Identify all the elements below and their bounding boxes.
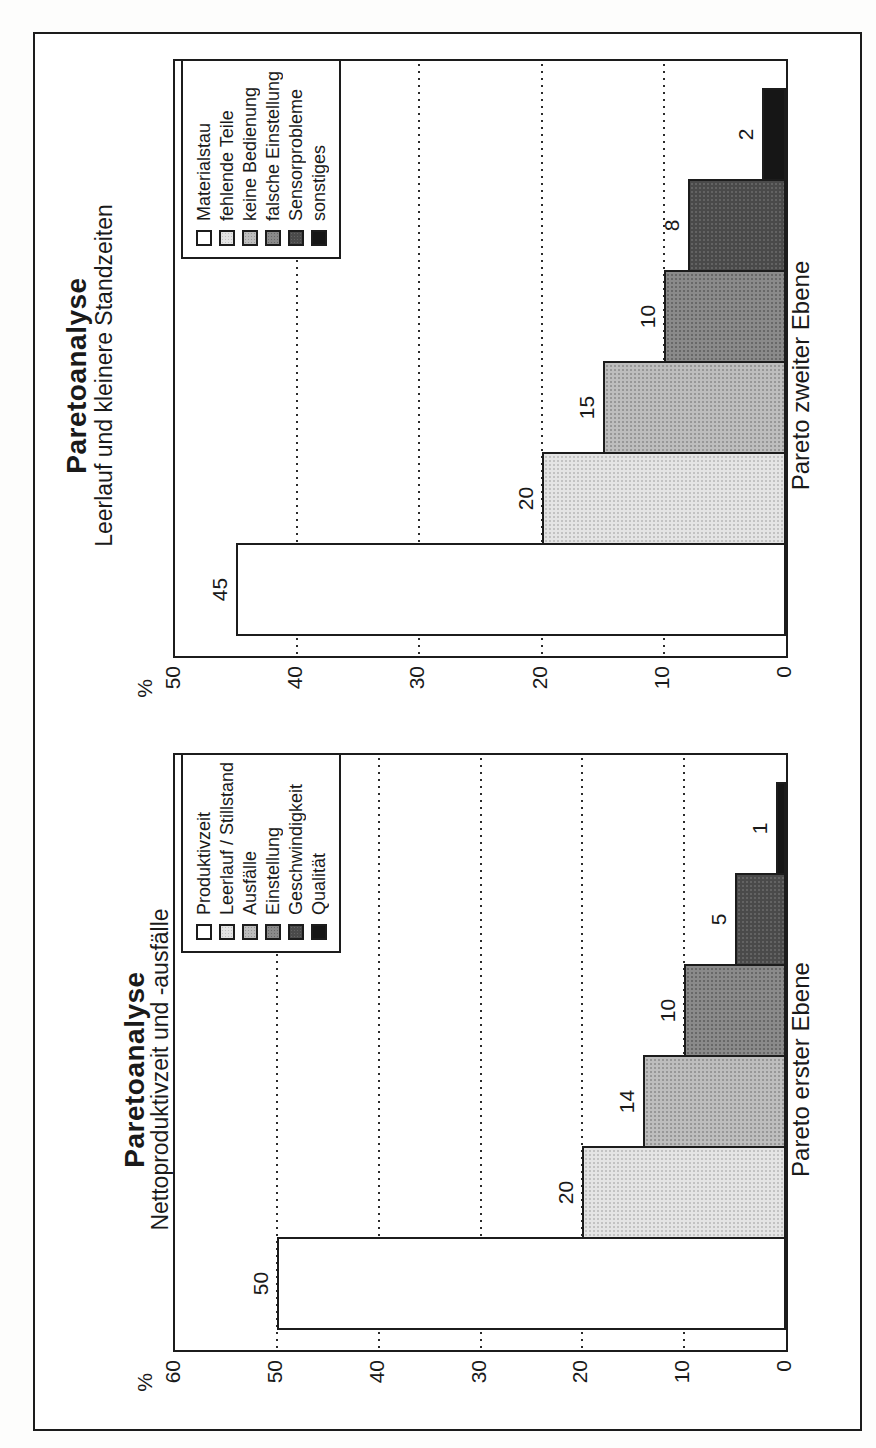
legend-item: keine Bedienung [238,67,261,246]
y-axis-tick-label: 20 [528,666,552,717]
bar-value-label: 45 [209,578,231,601]
bar-value-label: 10 [637,305,659,328]
bar [684,964,786,1057]
y-axis-tick-label: 40 [283,666,307,717]
bar-value-label: 8 [661,220,683,232]
legend-label: Ausfälle [240,851,260,915]
legend-item: sonstiges [307,67,330,246]
bar [582,1146,786,1239]
bar-value-label: 15 [576,396,598,419]
bar-value-label: 14 [616,1090,638,1113]
legend-label: Einstellung [263,827,283,915]
bar-value-label: 10 [657,999,679,1022]
plot-area: 5020141051ProduktivzeitLeerlauf / Stills… [173,753,788,1352]
y-axis-tick-label: 40 [365,1360,389,1411]
y-axis-tick-label: 30 [405,666,429,717]
rotated-chart-canvas: ParetoanalyseNettoproduktivzeit und -aus… [35,728,850,1411]
bar [542,452,786,545]
y-axis-tick-label: 10 [650,666,674,717]
bar-value-label: 2 [735,129,757,141]
legend-item: Ausfälle [238,761,261,940]
legend-item: Produktivzeit [192,761,215,940]
y-axis-unit-label: % [133,1360,157,1411]
legend-label: falsche Einstellung [263,71,283,221]
rotated-chart-canvas: ParetoanalyseLeerlauf und kleinere Stand… [35,34,850,717]
legend-swatch-icon [265,924,281,940]
chart-title: Paretoanalyse [61,34,93,717]
legend-swatch-icon [265,230,281,246]
legend-item: falsche Einstellung [261,67,284,246]
legend-swatch-icon [219,924,235,940]
legend-item: Sensorprobleme [284,67,307,246]
legend-swatch-icon [242,230,258,246]
x-axis-caption: Pareto erster Ebene [787,728,815,1411]
y-axis-tick-label: 60 [161,1360,185,1411]
legend-swatch-icon [288,924,304,940]
y-axis-tick-label: 50 [161,666,185,717]
legend: Materialstaufehlende Teilekeine Bedienun… [181,59,341,259]
legend-label: Produktivzeit [194,812,214,915]
y-axis-tick-label: 30 [467,1360,491,1411]
legend-swatch-icon [196,230,212,246]
chart-subtitle: Nettoproduktivzeit und -ausfälle [147,728,174,1411]
legend-swatch-icon [311,230,327,246]
legend-swatch-icon [311,924,327,940]
y-axis-tick-label: 20 [568,1360,592,1411]
bar [776,782,786,875]
legend-label: Leerlauf / Stillstand [217,762,237,915]
legend-swatch-icon [196,924,212,940]
bar [643,1055,786,1148]
legend-label: Qualität [309,853,329,915]
legend-item: Leerlauf / Stillstand [215,761,238,940]
chart-slot-top: ParetoanalyseLeerlauf und kleinere Stand… [35,34,850,717]
legend-item: Qualität [307,761,330,940]
legend: ProduktivzeitLeerlauf / StillstandAusfäl… [181,753,341,953]
bar-value-label: 5 [708,914,730,926]
bar [688,179,786,272]
x-axis-caption: Pareto zweiter Ebene [787,34,815,717]
chart-subtitle: Leerlauf und kleinere Standzeiten [91,34,118,717]
bar-value-label: 50 [250,1272,272,1295]
bar-value-label: 20 [555,1181,577,1204]
legend-label: Materialstau [194,123,214,221]
legend-swatch-icon [219,230,235,246]
legend-item: Materialstau [192,67,215,246]
legend-label: keine Bedienung [240,87,260,221]
plot-area: 4520151082Materialstaufehlende Teilekein… [173,59,788,658]
legend-item: Einstellung [261,761,284,940]
bar-value-label: 20 [515,487,537,510]
legend-label: Sensorprobleme [286,89,306,221]
bar-value-label: 1 [749,823,771,835]
bar [236,543,786,636]
legend-swatch-icon [242,924,258,940]
chart-slot-bottom: ParetoanalyseNettoproduktivzeit und -aus… [35,728,850,1411]
legend-label: sonstiges [309,145,329,221]
y-axis-tick-label: 50 [263,1360,287,1411]
y-axis-unit-label: % [133,666,157,717]
y-axis-tick-label: 10 [670,1360,694,1411]
bar [664,270,786,363]
bar [603,361,786,454]
bar [277,1237,786,1330]
bar [735,873,786,966]
legend-label: fehlende Teile [217,110,237,221]
legend-label: Geschwindigkeit [286,784,306,915]
bar [762,88,786,181]
legend-item: fehlende Teile [215,67,238,246]
legend-item: Geschwindigkeit [284,761,307,940]
legend-swatch-icon [288,230,304,246]
